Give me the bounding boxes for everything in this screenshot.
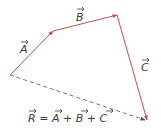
svg-text:A: A [19,43,28,56]
label-c: C [141,58,149,74]
vector-a [10,31,53,75]
label-a: A [19,40,28,56]
vector-b [53,15,117,31]
label-b: B [76,7,84,24]
vector-diagram: A B C R = A + B + C [0,0,161,128]
svg-text:C: C [141,61,149,74]
svg-text:B: B [76,11,84,24]
resultant-equation: R = A + B + C [28,109,113,125]
svg-text:R = A + B + C: R = A + B + C [28,112,107,125]
